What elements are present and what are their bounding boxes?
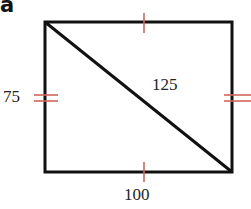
right-tick-marks <box>224 95 251 101</box>
geometry-figure: a 75 125 100 <box>0 0 251 209</box>
height-label: 75 <box>3 88 20 105</box>
width-label: 100 <box>124 186 150 203</box>
diagram-canvas <box>0 0 251 209</box>
diagonal-line <box>45 22 232 172</box>
diagonal-label: 125 <box>152 76 178 93</box>
